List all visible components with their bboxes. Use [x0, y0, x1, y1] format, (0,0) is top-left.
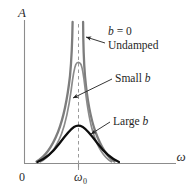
annotation-large-damping-prefix: Large — [113, 115, 142, 128]
annotation-undamped: b = 0 Undamped — [108, 25, 159, 52]
resonance-tick-label: ω 0 — [74, 170, 87, 186]
annotation-small-damping-prefix: Small — [115, 72, 145, 84]
x-axis-label: ω — [176, 149, 185, 164]
leader-undamped-arrow — [86, 37, 105, 43]
leader-small-damping-arrow — [73, 79, 112, 98]
annotation-undamped-equation: = 0 — [114, 25, 132, 37]
annotation-small-damping-symbol: b — [145, 72, 151, 84]
annotation-undamped-line1: b = 0 — [108, 25, 132, 37]
curve-undamped-left-branch — [37, 22, 73, 162]
resonance-tick-base: ω — [74, 170, 82, 184]
y-axis-label: A — [17, 5, 26, 20]
resonance-amplitude-figure: A ω 0 ω 0 b = 0 Undamped Small b Large b — [0, 0, 195, 191]
annotation-large-damping-symbol: b — [142, 115, 148, 127]
annotation-undamped-line2: Undamped — [108, 39, 159, 52]
resonance-tick-subscript: 0 — [83, 177, 87, 186]
annotation-large-damping: Large b — [113, 115, 148, 128]
annotation-small-damping: Small b — [115, 72, 151, 84]
curve-undamped — [37, 22, 115, 162]
origin-label: 0 — [19, 170, 25, 184]
